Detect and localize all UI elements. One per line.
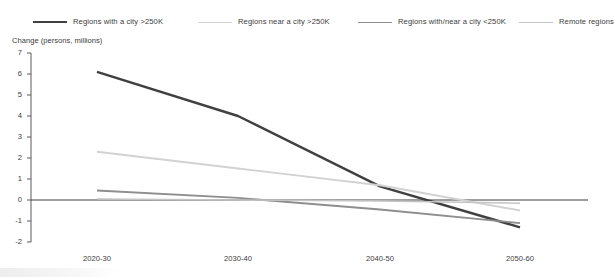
series-line-2 — [97, 191, 520, 224]
axis-lines — [27, 53, 31, 242]
series-lines — [97, 72, 520, 227]
y-tick-label: -1 — [6, 217, 22, 225]
y-tick-label: 5 — [6, 91, 22, 99]
y-tick-label: 3 — [6, 133, 22, 141]
footer-artifact — [0, 268, 120, 277]
y-tick-label: -2 — [6, 238, 22, 246]
x-tick-label: 2020-30 — [57, 255, 137, 263]
x-tick-label: 2040-50 — [340, 255, 420, 263]
y-tick-label: 7 — [6, 49, 22, 57]
y-tick-label: 0 — [6, 196, 22, 204]
y-tick-label: 4 — [6, 112, 22, 120]
y-tick-label: 6 — [6, 70, 22, 78]
x-tick-label: 2030-40 — [198, 255, 278, 263]
y-tick-label: 2 — [6, 154, 22, 162]
y-tick-label: 1 — [6, 175, 22, 183]
x-tick-label: 2050-60 — [480, 255, 560, 263]
